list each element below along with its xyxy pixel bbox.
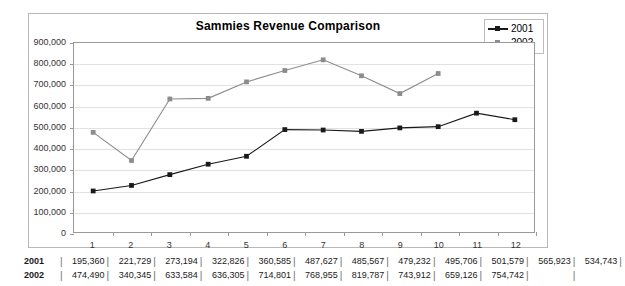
y-axis-tick-label: 0 xyxy=(61,228,66,238)
data-point-2001[interactable] xyxy=(129,183,134,188)
table-cells-2001: |195,360|221,729|273,194|322,826|360,585… xyxy=(58,256,625,267)
x-axis-tick-label: 11 xyxy=(473,240,482,250)
data-point-2001[interactable] xyxy=(512,117,517,122)
table-cell: 474,490 xyxy=(66,270,105,280)
y-axis-tick-label: 900,000 xyxy=(33,37,66,47)
x-axis-tick xyxy=(190,232,191,236)
table-separator: | xyxy=(571,256,579,267)
data-point-2002[interactable] xyxy=(436,71,441,76)
table-separator: | xyxy=(431,256,439,267)
data-point-2001[interactable] xyxy=(167,172,172,177)
x-axis-tick xyxy=(459,232,460,236)
x-axis-tick-label: 2 xyxy=(128,240,133,250)
y-axis-tick-label: 400,000 xyxy=(33,143,66,153)
table-separator: | xyxy=(151,256,159,267)
x-axis-tick xyxy=(228,232,229,236)
y-axis-tick-label: 600,000 xyxy=(33,101,66,111)
data-point-2001[interactable] xyxy=(436,124,441,129)
table-separator: | xyxy=(291,270,299,281)
table-cell: 273,194 xyxy=(159,256,198,266)
table-cell: 479,232 xyxy=(392,256,431,266)
table-separator: | xyxy=(384,270,392,281)
legend-item-2001[interactable]: 2001 xyxy=(488,22,540,36)
chart-frame: Sammies Revenue Comparison 2001 2002 xyxy=(28,13,548,248)
y-axis-tick-label: 200,000 xyxy=(33,186,66,196)
table-separator: | xyxy=(105,270,113,281)
series-line-2001 xyxy=(93,113,515,191)
table-cell: 501,579 xyxy=(485,256,524,266)
x-axis-tick-label: 10 xyxy=(434,240,444,250)
table-cell: 487,627 xyxy=(299,256,338,266)
table-separator: | xyxy=(477,270,485,281)
table-cell: 633,584 xyxy=(159,270,198,280)
table-row-label-2002: 2002 xyxy=(24,270,58,280)
legend-label-2001: 2001 xyxy=(511,24,533,34)
table-cell: 495,706 xyxy=(438,256,477,266)
table-separator: | xyxy=(384,256,392,267)
table-row-2002: 2002 |474,490|340,345|633,584|636,305|71… xyxy=(24,268,548,282)
x-axis-tick xyxy=(536,232,537,236)
data-point-2002[interactable] xyxy=(129,158,134,163)
data-point-2001[interactable] xyxy=(244,154,249,159)
series-layer xyxy=(74,43,534,232)
data-table: 2001 |195,360|221,729|273,194|322,826|36… xyxy=(24,254,548,282)
table-separator: | xyxy=(338,256,346,267)
table-cell: 636,305 xyxy=(205,270,244,280)
table-cell: 754,742 xyxy=(485,270,524,280)
table-cell xyxy=(532,270,571,280)
x-axis-tick-label: 8 xyxy=(359,240,364,250)
table-cell: 360,585 xyxy=(252,256,291,266)
x-axis-tick-label: 6 xyxy=(282,240,287,250)
x-axis-tick xyxy=(382,232,383,236)
table-cell: 322,826 xyxy=(205,256,244,266)
y-axis-tick-label: 700,000 xyxy=(33,79,66,89)
table-separator: | xyxy=(151,270,159,281)
table-cell xyxy=(578,270,617,280)
table-separator: | xyxy=(477,256,485,267)
x-axis-tick xyxy=(498,232,499,236)
x-axis-tick xyxy=(421,232,422,236)
data-point-2001[interactable] xyxy=(282,127,287,132)
plot-wrapper: 900,000800,000700,000600,000500,000400,0… xyxy=(73,42,535,233)
data-point-2001[interactable] xyxy=(397,126,402,131)
table-cell: 819,787 xyxy=(345,270,384,280)
x-axis-tick-label: 1 xyxy=(90,240,95,250)
y-axis-tick-label: 500,000 xyxy=(33,122,66,132)
x-axis-tick-label: 3 xyxy=(167,240,172,250)
data-point-2001[interactable] xyxy=(359,129,364,134)
data-point-2002[interactable] xyxy=(359,73,364,78)
data-point-2002[interactable] xyxy=(282,68,287,73)
data-point-2001[interactable] xyxy=(206,162,211,167)
x-axis-tick-label: 12 xyxy=(511,240,521,250)
data-point-2002[interactable] xyxy=(91,130,96,135)
table-separator: | xyxy=(198,270,206,281)
x-axis-tick-label: 5 xyxy=(244,240,249,250)
x-axis-tick-label: 7 xyxy=(321,240,326,250)
table-cell: 221,729 xyxy=(112,256,151,266)
y-axis-tick-label: 100,000 xyxy=(33,207,66,217)
data-point-2002[interactable] xyxy=(321,57,326,62)
x-axis-tick-label: 9 xyxy=(398,240,403,250)
data-point-2001[interactable] xyxy=(474,111,479,116)
data-point-2002[interactable] xyxy=(167,97,172,102)
y-axis-tick-label: 800,000 xyxy=(33,58,66,68)
table-cell: 485,567 xyxy=(345,256,384,266)
data-point-2002[interactable] xyxy=(244,80,249,85)
data-point-2001[interactable] xyxy=(91,189,96,194)
table-separator: | xyxy=(198,256,206,267)
table-separator: | xyxy=(524,270,532,281)
data-point-2002[interactable] xyxy=(397,91,402,96)
data-point-2002[interactable] xyxy=(206,96,211,101)
table-separator: | xyxy=(338,270,346,281)
table-separator: | xyxy=(431,270,439,281)
x-axis-tick xyxy=(151,232,152,236)
table-separator: | xyxy=(58,270,66,281)
table-row-label-2001: 2001 xyxy=(24,256,58,266)
table-separator: | xyxy=(524,256,532,267)
table-separator: | xyxy=(291,256,299,267)
legend-square-2001 xyxy=(495,26,500,31)
table-cell: 659,126 xyxy=(438,270,477,280)
table-cell: 534,743 xyxy=(578,256,617,266)
data-point-2001[interactable] xyxy=(321,128,326,133)
